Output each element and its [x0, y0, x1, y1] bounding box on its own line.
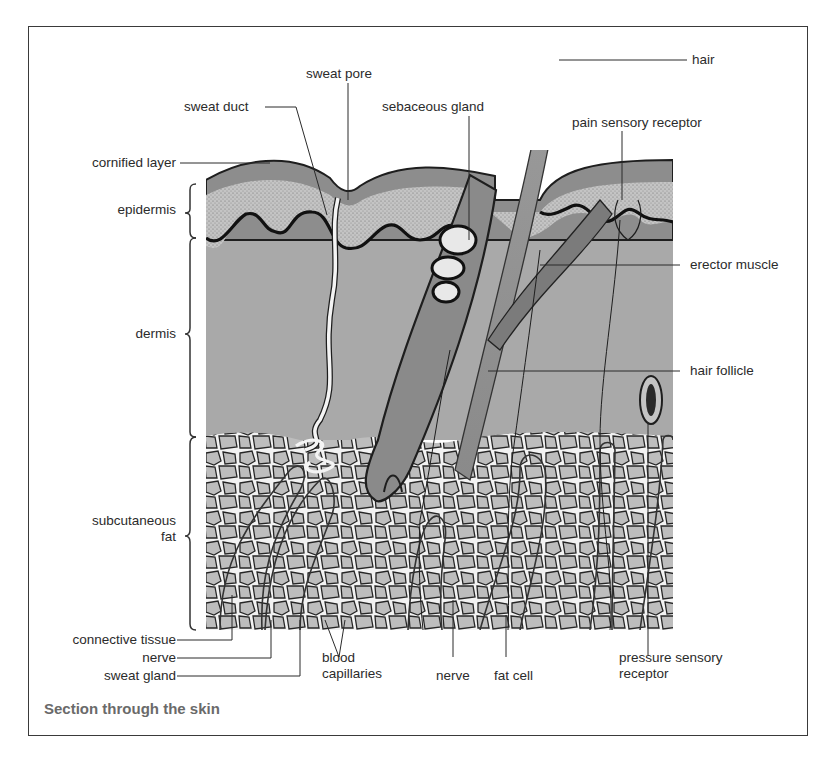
label-pain-sensory-receptor: pain sensory receptor	[572, 115, 702, 131]
label-hair: hair	[692, 52, 715, 68]
figure-caption: Section through the skin	[44, 700, 220, 717]
layer-braces	[185, 184, 196, 630]
label-subcutaneous-fat-line1: subcutaneous	[92, 513, 176, 529]
label-sweat-gland: sweat gland	[104, 668, 176, 684]
label-blood-capillaries-line2: capillaries	[322, 666, 382, 682]
label-nerve-left: nerve	[142, 650, 176, 666]
label-dermis: dermis	[135, 326, 176, 342]
label-sebaceous-gland: sebaceous gland	[382, 99, 484, 115]
label-erector-muscle: erector muscle	[690, 257, 779, 273]
subcutaneous-fat-layer	[206, 432, 673, 630]
label-sweat-duct: sweat duct	[184, 99, 249, 115]
label-pressure-sensory-receptor-line1: pressure sensory	[619, 650, 723, 666]
label-fat-cell: fat cell	[494, 668, 533, 684]
label-epidermis: epidermis	[117, 202, 176, 218]
label-subcutaneous-fat-line2: fat	[92, 529, 176, 545]
label-pressure-sensory-receptor: pressure sensory receptor	[619, 650, 723, 682]
label-blood-capillaries-line1: blood	[322, 650, 382, 666]
label-connective-tissue: connective tissue	[72, 632, 176, 648]
label-pressure-sensory-receptor-line2: receptor	[619, 666, 723, 682]
label-sweat-pore: sweat pore	[306, 66, 372, 82]
label-cornified-layer: cornified layer	[92, 155, 176, 171]
label-subcutaneous-fat: subcutaneous fat	[92, 513, 176, 545]
label-blood-capillaries: blood capillaries	[322, 650, 382, 682]
label-nerve-bottom: nerve	[436, 668, 470, 684]
label-hair-follicle: hair follicle	[690, 363, 754, 379]
